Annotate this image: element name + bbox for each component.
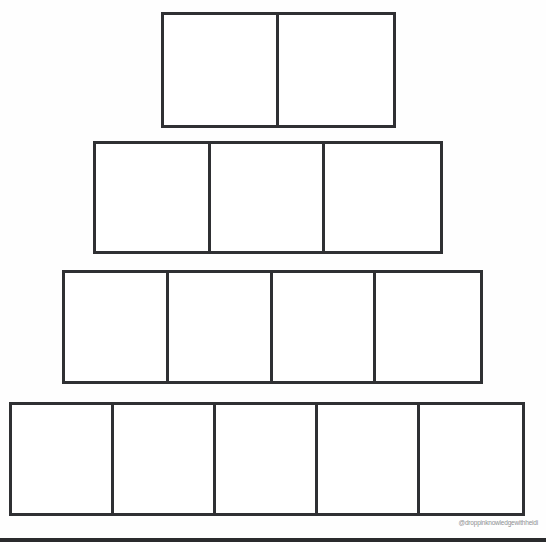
pyramid-cell[interactable] (216, 405, 318, 513)
pyramid-cell[interactable] (114, 405, 216, 513)
watermark-credit: @droppinknowledgewithheidi (459, 519, 538, 526)
scan-edge-artifact (0, 538, 546, 542)
pyramid-tier-1 (161, 12, 396, 128)
pyramid-cell[interactable] (12, 405, 114, 513)
pyramid-cell[interactable] (325, 144, 440, 251)
pyramid-cell[interactable] (211, 144, 326, 251)
pyramid-cell[interactable] (169, 273, 273, 381)
pyramid-tier-4 (9, 402, 525, 516)
pyramid-cell[interactable] (96, 144, 211, 251)
pyramid-cell[interactable] (420, 405, 522, 513)
pyramid-tier-2 (93, 141, 443, 254)
pyramid-cell[interactable] (273, 273, 377, 381)
worksheet-canvas: @droppinknowledgewithheidi (0, 0, 546, 542)
pyramid-cell[interactable] (318, 405, 420, 513)
pyramid-cell[interactable] (279, 15, 394, 125)
pyramid-cell[interactable] (65, 273, 169, 381)
pyramid-tier-3 (62, 270, 483, 384)
pyramid-cell[interactable] (164, 15, 279, 125)
pyramid-cell[interactable] (376, 273, 480, 381)
